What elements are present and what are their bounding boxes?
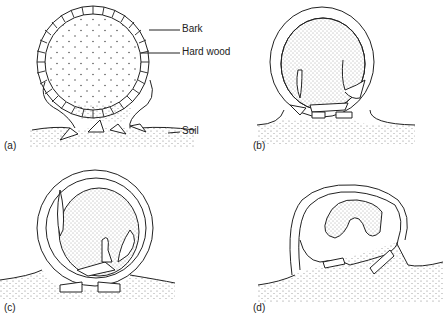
- panel-d: [258, 185, 443, 302]
- panel-label-c: (c): [4, 302, 16, 313]
- panel-label-b: (b): [253, 140, 265, 151]
- panel-b: [257, 7, 415, 145]
- label-bark: Bark: [182, 23, 203, 34]
- label-hardwood: Hard wood: [182, 46, 230, 57]
- panel-a: [30, 6, 195, 148]
- label-soil: Soil: [182, 125, 199, 136]
- panel-label-a: (a): [4, 140, 16, 151]
- panel-c: [0, 170, 175, 300]
- panel-label-d: (d): [253, 302, 265, 313]
- decay-diagram: Bark Hard wood Soil (a) (b) (c) (d): [0, 0, 443, 321]
